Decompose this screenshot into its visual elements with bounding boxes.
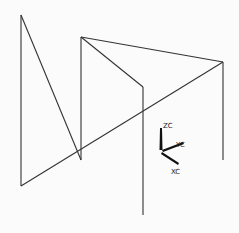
zc-axis-arrow xyxy=(160,128,163,150)
xc-axis-arrow xyxy=(161,152,179,165)
zc-label: ZC xyxy=(163,122,173,130)
yc-label: YC xyxy=(175,141,185,149)
coordinate-triad: ZC YC XC xyxy=(0,0,239,233)
graphics-viewport[interactable]: ZC YC XC xyxy=(0,0,239,233)
xc-label: XC xyxy=(171,168,180,176)
